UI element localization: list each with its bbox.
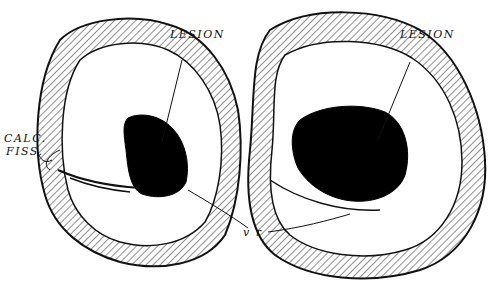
lesion-label-right: LESION bbox=[400, 28, 455, 41]
brain-sections-drawing bbox=[0, 0, 492, 288]
fiss-label-line2: FISS. bbox=[6, 145, 43, 158]
left-brain-section bbox=[37, 19, 240, 267]
calc-label-line1: CALC. bbox=[4, 132, 47, 145]
right-brain-section bbox=[248, 12, 485, 278]
lesion-label-left: LESION bbox=[170, 28, 225, 41]
vr-label: v r bbox=[243, 226, 262, 239]
